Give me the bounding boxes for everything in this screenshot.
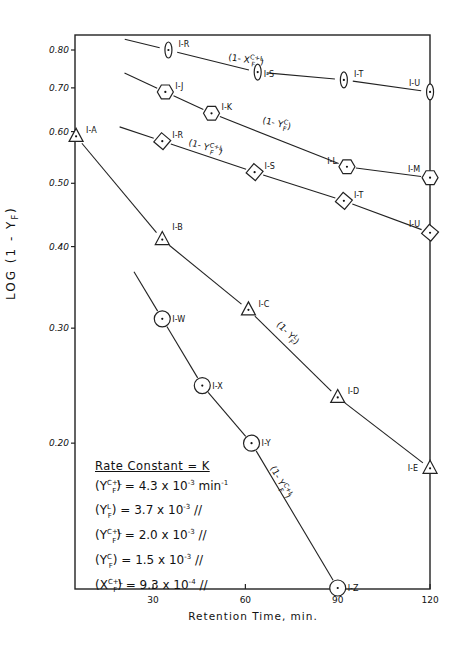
point-label: I-M (408, 165, 420, 174)
marker-dot (429, 177, 431, 179)
marker-dot (201, 384, 203, 386)
marker-dot (343, 200, 345, 202)
series-line-lead (134, 272, 158, 311)
point-label: I-E (408, 464, 418, 473)
y-tick-label: 0.20 (49, 438, 69, 448)
marker-dot (337, 587, 339, 589)
point-label: I-K (222, 103, 233, 112)
marker-dot (429, 467, 431, 469)
point-label: I-U (409, 220, 420, 229)
point-label: I-R (172, 131, 183, 140)
point-label: I-R (178, 40, 189, 49)
marker-dot (429, 232, 431, 234)
triangle-marker (423, 460, 437, 473)
series-line (255, 316, 331, 391)
series-line-lead (120, 127, 154, 138)
x-tick-label: 60 (240, 595, 252, 605)
x-axis-title: Retention Time, min. (188, 610, 317, 622)
y-tick-label: 0.40 (49, 242, 69, 252)
marker-dot (161, 140, 163, 142)
y-tick-label: 0.50 (49, 178, 69, 188)
series-line (169, 245, 241, 304)
y-axis-title-sub: F (11, 213, 20, 220)
marker-dot (429, 91, 431, 93)
point-label: I-Z (348, 584, 359, 593)
marker-dot (167, 49, 169, 51)
marker-dot (164, 91, 166, 93)
marker-dot (343, 79, 345, 81)
y-axis-title: LOG (1 - YF) (4, 206, 20, 300)
series-line-lead (125, 39, 160, 48)
marker-dot (346, 166, 348, 168)
series-line (174, 96, 204, 110)
plot-area: 0.800.700.600.500.400.300.20306090120Ret… (0, 0, 466, 649)
triangle-marker (331, 389, 345, 402)
series-line (167, 327, 198, 378)
series-line (267, 73, 335, 79)
point-label: I-X (212, 382, 223, 391)
point-label: I-J (175, 82, 183, 91)
marker-dot (161, 238, 163, 240)
y-tick-label: 0.70 (49, 83, 69, 93)
point-label: I-S (264, 70, 274, 79)
y-tick-label: 0.30 (49, 323, 69, 333)
triangle-marker (155, 232, 169, 245)
curve-label-y-c: (1- YCF) (261, 113, 292, 134)
series-line (256, 451, 333, 580)
series-line (208, 392, 246, 436)
x-tick-label: 120 (421, 595, 438, 605)
legend-row: (YLF) = 3.7 x 10-3 // (95, 499, 228, 524)
rate-constant-legend: Rate Constant = K (YC+LF) = 4.3 x 10-3 m… (95, 458, 228, 599)
marker-dot (257, 71, 259, 73)
y-tick-label: 0.60 (49, 127, 69, 137)
marker-dot (247, 309, 249, 311)
point-label: I-D (348, 387, 359, 396)
curve-label-y-l: (1- YLF) (272, 318, 302, 349)
marker-dot (254, 171, 256, 173)
point-label: I-C (258, 300, 269, 309)
marker-dot (75, 135, 77, 137)
series-line (263, 175, 335, 198)
series-line-lead (125, 73, 158, 88)
marker-dot (210, 112, 212, 114)
point-label: I-A (86, 126, 97, 135)
legend-row: (YCF) = 1.5 x 10-3 // (95, 549, 228, 574)
legend-row: (XC+LF) = 9.3 x 10-4 // (95, 574, 228, 599)
point-label: I-B (172, 223, 182, 232)
y-axis-title-text: LOG (1 - Y (4, 220, 18, 300)
point-label: I-Y (262, 439, 271, 448)
point-label: I-T (354, 70, 364, 79)
series-line (345, 403, 423, 463)
point-label: I-T (354, 191, 364, 200)
legend-row: (YC+LF) = 4.3 x 10-3 min-1 (95, 475, 228, 500)
point-label: I-L (327, 157, 337, 166)
point-label: I-S (265, 162, 275, 171)
marker-dot (250, 442, 252, 444)
series-line (82, 143, 157, 232)
curve-label-y-cl-lower: (1- YC+LF) (266, 463, 296, 501)
point-label: I-W (172, 315, 185, 324)
triangle-marker (69, 128, 83, 141)
y-tick-label: 0.80 (49, 45, 69, 55)
y-axis-title-end: ) (4, 206, 18, 213)
legend-rows: (YC+LF) = 4.3 x 10-3 min-1(YLF) = 3.7 x … (95, 475, 228, 599)
triangle-marker (241, 302, 255, 315)
legend-title: Rate Constant = K (95, 458, 228, 475)
point-label: I-U (409, 79, 420, 88)
marker-dot (161, 318, 163, 320)
marker-dot (337, 396, 339, 398)
legend-row: (YC+LF) = 2.0 x 10-3 // (95, 524, 228, 549)
